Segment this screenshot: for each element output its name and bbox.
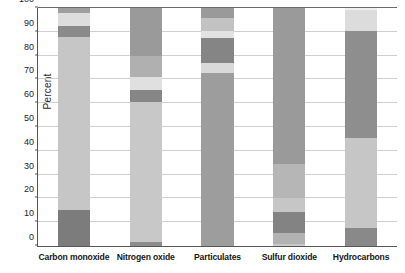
bar-segment[interactable] bbox=[58, 26, 90, 37]
y-tick-mark-40 bbox=[35, 149, 38, 150]
bar-segment[interactable] bbox=[273, 8, 305, 164]
y-tick-label-20: 20 bbox=[24, 185, 38, 194]
bar-segment[interactable] bbox=[345, 228, 377, 246]
bar-segment[interactable] bbox=[273, 233, 305, 244]
x-axis-label: Sulfur dioxide bbox=[262, 252, 317, 262]
bar-segment[interactable] bbox=[201, 8, 233, 18]
y-tick-mark-50 bbox=[35, 126, 38, 127]
x-axis-label: Hydrocarbons bbox=[333, 252, 389, 262]
y-tick-label-10: 10 bbox=[24, 209, 38, 218]
bar-segment[interactable] bbox=[201, 38, 233, 63]
bar-segment[interactable] bbox=[130, 56, 162, 77]
y-tick-label-80: 80 bbox=[24, 42, 38, 51]
y-tick-mark-20 bbox=[35, 197, 38, 198]
bar-segment[interactable] bbox=[58, 8, 90, 13]
y-tick-label-60: 60 bbox=[24, 90, 38, 99]
y-tick-label-90: 90 bbox=[24, 18, 38, 27]
y-tick-mark-0 bbox=[35, 245, 38, 246]
y-tick-label-30: 30 bbox=[24, 161, 38, 170]
bar-particulates[interactable]: Particulates bbox=[201, 8, 233, 246]
bar-segment[interactable] bbox=[345, 10, 377, 30]
bar-segment[interactable] bbox=[58, 37, 90, 211]
y-tick-label-0: 0 bbox=[29, 233, 38, 242]
y-tick-mark-70 bbox=[35, 78, 38, 79]
bar-nitrogen-oxide[interactable]: Nitrogen oxide bbox=[130, 8, 162, 246]
x-axis-label: Particulates bbox=[194, 252, 241, 262]
bar-segment[interactable] bbox=[130, 77, 162, 90]
bar-segment[interactable] bbox=[273, 244, 305, 246]
bar-segment[interactable] bbox=[130, 102, 162, 242]
plot-area: Carbon monoxideNitrogen oxideParticulate… bbox=[37, 8, 397, 247]
bar-segment[interactable] bbox=[201, 18, 233, 31]
bar-series: Carbon monoxideNitrogen oxideParticulate… bbox=[38, 8, 397, 246]
bar-segment[interactable] bbox=[273, 198, 305, 211]
x-axis-label: Nitrogen oxide bbox=[117, 252, 175, 262]
y-tick-label-100: 100 bbox=[19, 0, 38, 4]
y-tick-label-40: 40 bbox=[24, 137, 38, 146]
bar-segment[interactable] bbox=[345, 8, 377, 10]
y-tick-mark-30 bbox=[35, 173, 38, 174]
bar-segment[interactable] bbox=[58, 13, 90, 26]
y-tick-mark-10 bbox=[35, 221, 38, 222]
stacked-bar-chart: Percent Carbon monoxideNitrogen oxidePar… bbox=[0, 0, 405, 273]
bar-segment[interactable] bbox=[58, 210, 90, 246]
bar-segment[interactable] bbox=[130, 90, 162, 102]
bar-segment[interactable] bbox=[345, 31, 377, 138]
bar-segment[interactable] bbox=[273, 212, 305, 233]
bar-segment[interactable] bbox=[273, 164, 305, 199]
bar-segment[interactable] bbox=[345, 138, 377, 228]
bar-sulfur-dioxide[interactable]: Sulfur dioxide bbox=[273, 8, 305, 246]
y-tick-mark-80 bbox=[35, 54, 38, 55]
bar-segment[interactable] bbox=[201, 63, 233, 74]
bar-segment[interactable] bbox=[130, 242, 162, 246]
y-tick-label-70: 70 bbox=[24, 66, 38, 75]
bar-segment[interactable] bbox=[201, 73, 233, 246]
bar-segment[interactable] bbox=[130, 8, 162, 56]
bar-hydrocarbons[interactable]: Hydrocarbons bbox=[345, 8, 377, 246]
bar-segment[interactable] bbox=[201, 31, 233, 38]
y-tick-label-50: 50 bbox=[24, 114, 38, 123]
bar-carbon-monoxide[interactable]: Carbon monoxide bbox=[58, 8, 90, 246]
y-tick-mark-90 bbox=[35, 30, 38, 31]
x-axis-label: Carbon monoxide bbox=[38, 252, 109, 262]
y-tick-mark-60 bbox=[35, 102, 38, 103]
y-tick-mark-100 bbox=[35, 7, 38, 8]
